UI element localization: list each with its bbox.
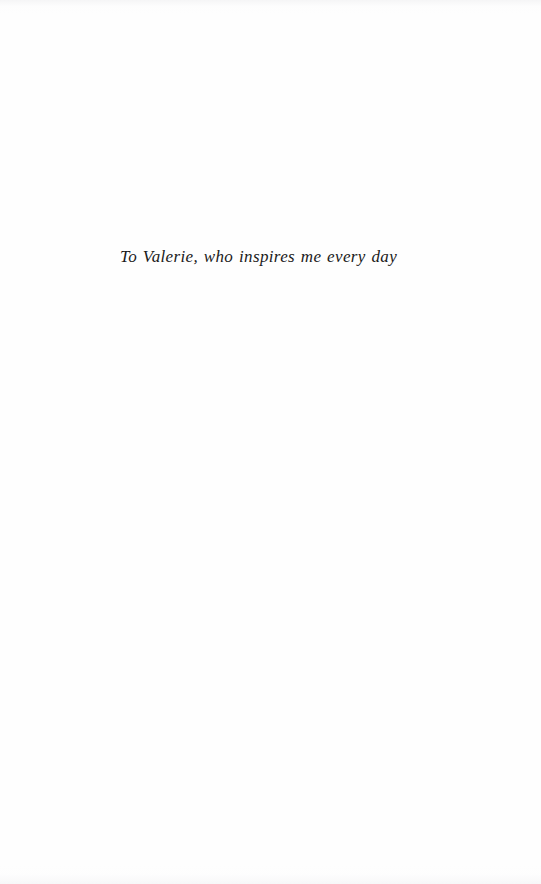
scan-noise-top-edge xyxy=(0,0,541,14)
dedication-block: To Valerie, who inspires me every day xyxy=(0,244,517,270)
dedication-text: To Valerie, who inspires me every day xyxy=(120,244,397,270)
scan-noise-bottom-edge xyxy=(0,864,541,884)
dedication-page: To Valerie, who inspires me every day xyxy=(0,0,541,884)
